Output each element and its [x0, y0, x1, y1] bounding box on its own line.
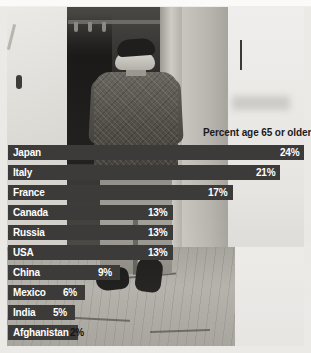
- bar-value-label: 6%: [63, 285, 77, 300]
- bar-row: Russia13%: [8, 225, 174, 240]
- bar-chart: Percent age 65 or older Japan24%Italy21%…: [0, 0, 311, 353]
- bar-value-label: 21%: [256, 165, 275, 180]
- bar-category-label: Mexico: [13, 285, 46, 300]
- bar-row: Afghanistan2%: [8, 325, 96, 340]
- bar-row: China9%: [8, 265, 124, 280]
- bar-row: France17%: [8, 185, 234, 200]
- bar-category-label: France: [13, 185, 45, 200]
- bar-row: Italy21%: [8, 165, 282, 180]
- bar-category-label: Canada: [13, 205, 48, 220]
- bar-row: USA13%: [8, 245, 174, 260]
- bar-row: Mexico6%: [8, 285, 89, 300]
- bar-category-label: USA: [13, 245, 34, 260]
- bar-value-label: 9%: [98, 265, 112, 280]
- bar-value-label: 17%: [208, 185, 227, 200]
- bar-value-label: 13%: [148, 225, 167, 240]
- bar-fill: [8, 165, 280, 180]
- bar-category-label: Russia: [13, 225, 45, 240]
- chart-note: Percent age 65 or older: [203, 127, 311, 138]
- bar-fill: [8, 145, 304, 160]
- bar-category-label: China: [13, 265, 40, 280]
- bar-value-label: 24%: [280, 145, 299, 160]
- bar-row: Japan24%: [8, 145, 306, 160]
- bar-value-label: 5%: [53, 305, 67, 320]
- bar-value-label: 13%: [148, 245, 167, 260]
- bar-category-label: Italy: [13, 165, 32, 180]
- bar-value-label: 2%: [70, 325, 84, 340]
- bar-value-label: 13%: [148, 205, 167, 220]
- bar-category-label: India: [13, 305, 35, 320]
- bar-row: Canada13%: [8, 205, 174, 220]
- bar-category-label: Japan: [13, 145, 41, 160]
- bar-row: India5%: [8, 305, 79, 320]
- bar-category-label: Afghanistan: [13, 325, 69, 340]
- infographic-figure: Percent age 65 or older Japan24%Italy21%…: [0, 0, 311, 353]
